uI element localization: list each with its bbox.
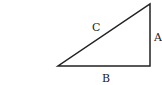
triangle-shape	[58, 4, 150, 66]
label-side-a: A	[154, 32, 162, 43]
label-base-b: B	[102, 73, 110, 84]
right-triangle-diagram	[0, 0, 162, 85]
label-hypotenuse-c: C	[92, 22, 100, 33]
